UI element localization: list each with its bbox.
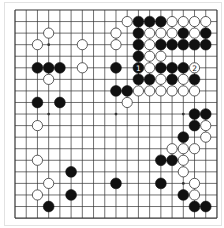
star-point-icon: [182, 182, 185, 185]
white-stone-icon[interactable]: [122, 97, 132, 107]
black-stone-icon[interactable]: [66, 190, 77, 201]
white-stone-icon[interactable]: [44, 178, 54, 188]
white-stone-icon[interactable]: [178, 16, 188, 26]
black-stone-icon[interactable]: [189, 74, 200, 85]
white-stone-icon[interactable]: [201, 132, 211, 142]
white-stone-icon[interactable]: [189, 144, 199, 154]
star-point-icon: [182, 113, 185, 116]
white-stone-icon[interactable]: [178, 155, 188, 165]
black-stone-icon[interactable]: [133, 74, 144, 85]
white-stone-icon[interactable]: [201, 121, 211, 131]
star-point-icon: [115, 113, 118, 116]
white-stone-icon[interactable]: [111, 40, 121, 50]
black-stone-icon[interactable]: [111, 178, 122, 189]
black-stone-icon[interactable]: [167, 62, 178, 73]
white-stone-icon[interactable]: [145, 40, 155, 50]
white-stone-icon[interactable]: [32, 155, 42, 165]
white-stone-icon[interactable]: [167, 28, 177, 38]
black-stone-icon[interactable]: [167, 39, 178, 50]
white-stone-icon[interactable]: [189, 178, 199, 188]
black-stone-icon[interactable]: [178, 132, 189, 143]
star-point-icon: [47, 113, 50, 116]
black-stone-icon[interactable]: [32, 97, 43, 108]
white-stone-icon[interactable]: [178, 86, 188, 96]
black-stone-icon[interactable]: [178, 28, 189, 39]
move-number-label: 2: [192, 64, 197, 73]
black-stone-icon[interactable]: [189, 201, 200, 212]
white-stone-icon[interactable]: [32, 190, 42, 200]
black-stone-icon[interactable]: [167, 74, 178, 85]
black-stone-icon[interactable]: [133, 51, 144, 62]
white-stone-icon[interactable]: [167, 16, 177, 26]
black-stone-icon[interactable]: [155, 178, 166, 189]
black-stone-icon[interactable]: [167, 155, 178, 166]
white-stone-icon[interactable]: [145, 63, 155, 73]
white-stone-icon[interactable]: [44, 28, 54, 38]
white-stone-icon[interactable]: [167, 86, 177, 96]
white-stone-icon[interactable]: [122, 16, 132, 26]
white-stone-icon[interactable]: [189, 190, 199, 200]
black-stone-icon[interactable]: [133, 28, 144, 39]
black-stone-icon[interactable]: [54, 62, 65, 73]
black-stone-icon[interactable]: [32, 62, 43, 73]
white-stone-icon[interactable]: [44, 74, 54, 84]
white-stone-icon[interactable]: [178, 144, 188, 154]
white-stone-icon[interactable]: [201, 16, 211, 26]
white-stone-icon[interactable]: [156, 86, 166, 96]
black-stone-icon[interactable]: [200, 28, 211, 39]
go-board[interactable]: 12: [0, 0, 224, 228]
star-point-icon: [47, 43, 50, 46]
white-stone-icon[interactable]: [189, 28, 199, 38]
white-stone-icon[interactable]: [145, 51, 155, 61]
white-stone-icon[interactable]: [167, 144, 177, 154]
black-stone-icon[interactable]: [66, 166, 77, 177]
black-stone-icon[interactable]: [111, 62, 122, 73]
black-stone-icon[interactable]: [189, 39, 200, 50]
white-stone-icon[interactable]: [156, 28, 166, 38]
white-stone-icon[interactable]: [77, 40, 87, 50]
white-stone-icon[interactable]: [156, 51, 166, 61]
white-stone-icon[interactable]: [178, 167, 188, 177]
white-stone-icon[interactable]: [32, 121, 42, 131]
white-stone-icon[interactable]: [133, 86, 143, 96]
black-stone-icon[interactable]: [43, 201, 54, 212]
black-stone-icon[interactable]: [178, 190, 189, 201]
black-stone-icon[interactable]: [200, 39, 211, 50]
black-stone-icon[interactable]: [122, 86, 133, 97]
black-stone-icon[interactable]: [200, 201, 211, 212]
black-stone-icon[interactable]: [111, 86, 122, 97]
white-stone-icon[interactable]: [178, 74, 188, 84]
black-stone-icon[interactable]: [178, 62, 189, 73]
black-stone-icon[interactable]: [200, 109, 211, 120]
black-stone-icon[interactable]: [155, 155, 166, 166]
white-stone-icon[interactable]: [156, 74, 166, 84]
black-stone-icon[interactable]: [133, 39, 144, 50]
black-stone-icon[interactable]: [155, 16, 166, 27]
white-stone-icon[interactable]: [145, 86, 155, 96]
black-stone-icon[interactable]: [189, 120, 200, 131]
white-stone-icon[interactable]: [111, 28, 121, 38]
move-number-label: 1: [136, 64, 141, 73]
black-stone-icon[interactable]: [144, 74, 155, 85]
black-stone-icon[interactable]: [178, 39, 189, 50]
black-stone-icon[interactable]: [144, 16, 155, 27]
black-stone-icon[interactable]: [133, 16, 144, 27]
black-stone-icon[interactable]: [189, 109, 200, 120]
black-stone-icon[interactable]: [155, 62, 166, 73]
white-stone-icon[interactable]: [145, 28, 155, 38]
white-stone-icon[interactable]: [189, 16, 199, 26]
black-stone-icon[interactable]: [54, 97, 65, 108]
white-stone-icon[interactable]: [189, 86, 199, 96]
black-stone-icon[interactable]: [43, 62, 54, 73]
black-stone-icon[interactable]: [155, 39, 166, 50]
white-stone-icon[interactable]: [77, 63, 87, 73]
white-stone-icon[interactable]: [32, 40, 42, 50]
